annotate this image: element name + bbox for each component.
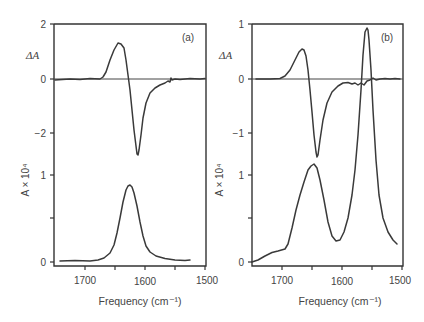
panel-a-ytick-upper-2: 2 (40, 19, 46, 30)
panel-a-difference-trace (55, 43, 205, 155)
panel-b-xtick-1700: 1700 (271, 275, 294, 286)
panel-b-frame (252, 24, 403, 266)
panel-b-xtick-1600: 1600 (331, 276, 354, 287)
panel-a-ytick-upper-neg2: −2 (35, 128, 47, 139)
panel-b-absorbance-label: A × 10⁴ (214, 164, 225, 197)
panel-a-ytick-lower-1: 1 (40, 170, 46, 181)
panel-b-x-axis-title: Frequency (cm⁻¹) (298, 295, 381, 307)
panel-a-xtick-1600: 1600 (134, 276, 157, 287)
panel-b-delta-a-label: ΔA (218, 49, 232, 61)
panel-a-frame (54, 24, 206, 266)
panel-a-x-axis-title: Frequency (cm⁻¹) (98, 295, 181, 307)
panel-b-ytick-lower-0: 0 (238, 257, 244, 268)
panel-a-ytick-lower-0: 0 (40, 257, 46, 268)
panel-a-xtick-1500: 1500 (196, 275, 219, 286)
panel-a-xtick-1700: 1700 (74, 275, 97, 286)
panel-b-ytick-upper-0: 0 (238, 74, 244, 85)
panel-b-xtick-1500: 1500 (389, 275, 412, 286)
panel-a-absorbance-trace (60, 185, 190, 261)
ftir-figure: 2 0 −2 1 0 1700 1600 1500 ΔA A × 10⁴ Fre… (0, 0, 424, 322)
panel-a-delta-a-label: ΔA (25, 49, 39, 61)
panel-b: 1 0 −1 1 0 1700 1600 1500 ΔA A × 10⁴ Fre… (214, 19, 412, 307)
panel-a: 2 0 −2 1 0 1700 1600 1500 ΔA A × 10⁴ Fre… (20, 19, 219, 307)
panel-b-ytick-lower-1: 1 (238, 170, 244, 181)
panel-b-difference-trace (256, 49, 400, 157)
panel-b-absorbance-trace (252, 28, 397, 262)
panel-b-label: (b) (381, 32, 393, 43)
panel-b-ytick-upper-neg1: −1 (233, 128, 245, 139)
panel-a-absorbance-label: A × 10⁴ (20, 164, 31, 197)
panel-a-ytick-upper-0: 0 (40, 74, 46, 85)
panel-a-label: (a) (182, 32, 194, 43)
panel-b-ytick-upper-1: 1 (238, 19, 244, 30)
